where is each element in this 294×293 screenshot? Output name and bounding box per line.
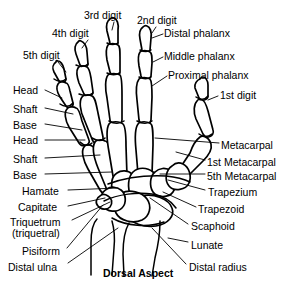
label-metacarpal-1st: 1st Metacarpal (207, 157, 276, 169)
leader-distal-phalanx (152, 34, 163, 38)
bone-distal-phalanx-d4 (75, 41, 88, 67)
leader-triquetrum (72, 202, 110, 220)
label-distal-phalanx: Distal phalanx (164, 28, 230, 40)
label-distal-ulna: Distal ulna (8, 262, 57, 274)
leader-lunate (168, 238, 188, 242)
label-distal-radius: Distal radius (189, 262, 247, 274)
label-shaft-lower: Shaft (13, 154, 38, 166)
digit-2-bones (135, 26, 153, 180)
label-triquetrum-line2: (triquetral) (12, 228, 60, 240)
label-digit-5: 5th digit (23, 50, 60, 62)
label-base-lower: Base (13, 170, 37, 182)
label-shaft-upper: Shaft (13, 104, 38, 116)
bone-distal-phalanx-d2 (140, 26, 152, 53)
bone-proximal-phalanx-d1 (194, 99, 213, 137)
bone-middle-phalanx-d3 (106, 44, 120, 76)
label-head-upper: Head (13, 85, 38, 97)
label-trapezoid: Trapezoid (198, 204, 244, 216)
label-pisiform: Pisiform (22, 246, 60, 258)
label-metacarpal: Metacarpal (221, 140, 273, 152)
leader-proximal-phalanx (152, 76, 167, 86)
bone-middle-phalanx-d4 (77, 66, 93, 96)
label-base-upper: Base (13, 120, 37, 132)
leader-digit-2 (152, 27, 156, 33)
label-trapezium: Trapezium (208, 187, 257, 199)
hand-skeleton-diagram: 5th digit4th digit3rd digit2nd digit1st … (0, 0, 294, 293)
bone-proximal-phalanx-d3 (106, 74, 122, 126)
leader-distal-ulna (68, 228, 118, 263)
label-scaphoid: Scaphoid (191, 221, 235, 233)
leader-middle-phalanx (153, 57, 163, 62)
label-lunate: Lunate (191, 240, 223, 252)
label-middle-phalanx: Middle phalanx (164, 51, 235, 63)
label-proximal-phalanx: Proximal phalanx (168, 70, 249, 82)
label-digit-4: 4th digit (52, 28, 89, 40)
label-head-lower: Head (13, 135, 38, 147)
label-digit-3: 3rd digit (84, 10, 121, 22)
bone-middle-phalanx-d2 (138, 51, 152, 80)
label-metacarpal-5th: 5th Metacarpal (207, 171, 276, 183)
label-digit-2: 2nd digit (137, 15, 177, 27)
leader-pisiform (67, 205, 103, 248)
leader-digit-1 (208, 96, 218, 100)
label-hamate: Hamate (22, 186, 59, 198)
figure-caption: Dorsal Aspect (103, 267, 173, 279)
bone-proximal-phalanx-d2 (136, 78, 152, 125)
label-capitate: Capitate (18, 202, 57, 214)
label-digit-1: 1st digit (220, 90, 256, 102)
bone-distal-phalanx-d3 (107, 18, 119, 46)
